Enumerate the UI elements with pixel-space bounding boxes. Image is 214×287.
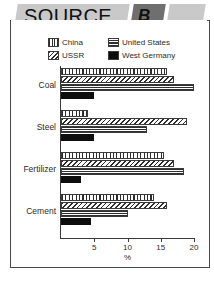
swatch-vertical-icon — [48, 38, 59, 47]
bar-steel-united-states — [61, 126, 147, 133]
category-label-steel: Steel — [14, 122, 56, 132]
bar-coal-west-germany — [61, 92, 94, 99]
frame-top-mask — [11, 20, 207, 30]
x-axis-tick-label-10: 10 — [123, 243, 132, 252]
swatch-horizontal-icon — [108, 38, 119, 47]
legend-item-west-germany: West Germany — [108, 51, 198, 60]
bar-cement-west-germany — [61, 218, 91, 225]
legend-label-china: China — [62, 38, 83, 47]
x-axis-tick-label-5: 5 — [92, 243, 96, 252]
category-label-coal: Coal — [14, 80, 56, 90]
x-axis-tick-10 — [128, 238, 129, 242]
bar-fertilizer-china — [61, 152, 164, 159]
x-axis-tick-5 — [94, 238, 95, 242]
legend-label-west-germany: West Germany — [122, 51, 175, 60]
bar-fertilizer-ussr — [61, 160, 174, 167]
legend-item-china: China — [48, 38, 108, 47]
legend-label-united-states: United States — [122, 38, 170, 47]
chart-plot-area: % 5101520CoalSteelFertilizerCement — [14, 66, 204, 246]
legend-item-united-states: United States — [108, 38, 198, 47]
category-label-cement: Cement — [14, 206, 56, 216]
x-axis-tick-label-15: 15 — [156, 243, 165, 252]
bar-fertilizer-west-germany — [61, 176, 81, 183]
swatch-diagonal-icon — [48, 51, 59, 60]
figure-caption — [8, 278, 214, 287]
chart-legend: China United States USSR West Germany — [48, 36, 208, 62]
bar-steel-ussr — [61, 118, 187, 125]
legend-label-ussr: USSR — [62, 51, 84, 60]
bar-cement-united-states — [61, 210, 128, 217]
bar-fertilizer-united-states — [61, 168, 184, 175]
bar-coal-united-states — [61, 84, 194, 91]
x-axis-tick-20 — [194, 238, 195, 242]
swatch-solid-icon — [108, 51, 119, 60]
bar-cement-ussr — [61, 202, 167, 209]
bar-coal-ussr — [61, 76, 174, 83]
x-axis-tick-15 — [161, 238, 162, 242]
bar-cement-china — [61, 194, 154, 201]
category-label-fertilizer: Fertilizer — [14, 164, 56, 174]
bar-coal-china — [61, 68, 167, 75]
bar-steel-west-germany — [61, 134, 94, 141]
bar-steel-china — [61, 110, 88, 117]
legend-item-ussr: USSR — [48, 51, 108, 60]
x-axis-tick-label-20: 20 — [190, 243, 199, 252]
x-axis-unit-label: % — [124, 253, 131, 262]
